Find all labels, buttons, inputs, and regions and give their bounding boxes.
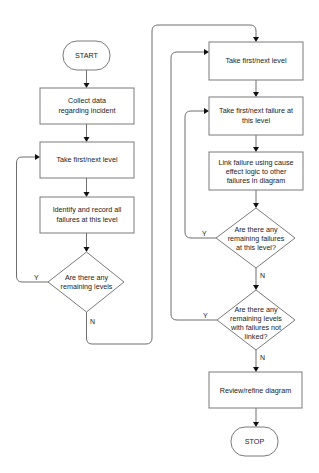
arrowhead	[253, 37, 259, 42]
arrowhead	[84, 137, 90, 142]
node-label: failures at this level	[56, 215, 118, 224]
node-label: Review/refine diagram	[220, 386, 292, 395]
node-label: Are there any	[234, 225, 278, 234]
label-no: N	[260, 272, 265, 279]
arrowhead	[253, 285, 259, 290]
node-take-level-right: Take first/next level	[209, 42, 303, 80]
arrowhead	[84, 83, 90, 88]
node-label: START	[75, 51, 99, 60]
node-collect: Collect data regarding incident	[40, 88, 134, 124]
node-remaining-failures: Are there any remaining failures at this…	[216, 208, 295, 268]
node-start: START	[63, 41, 110, 70]
node-take-failure: Take first/next failure at this level	[209, 97, 303, 135]
node-label: Collect data	[68, 96, 106, 105]
node-label: Take first/next failure at	[219, 106, 293, 115]
label-yes: Y	[34, 274, 39, 281]
node-link-failure: Link failure using cause effect logic to…	[209, 152, 303, 190]
arrowhead	[253, 203, 259, 208]
label-no: N	[260, 354, 265, 361]
node-label: Are there any	[65, 273, 109, 282]
arrowhead	[84, 192, 90, 197]
arrowhead	[204, 49, 209, 55]
node-remaining-unlinked: Are there any remaining levels with fail…	[217, 290, 295, 350]
arrowhead	[253, 147, 259, 152]
label-yes: Y	[202, 230, 207, 237]
node-label: Link failure using cause	[218, 158, 293, 167]
label-yes: Y	[203, 312, 208, 319]
node-remaining-levels: Are there any remaining levels	[48, 252, 124, 312]
node-label: Identify and record all	[53, 205, 122, 214]
node-label: with failures not	[230, 323, 281, 332]
node-label: remaining levels	[230, 314, 282, 323]
label-no: N	[90, 318, 95, 325]
node-label: Take first/next level	[56, 155, 118, 164]
node-label: regarding incident	[58, 106, 115, 115]
node-label: at this level?	[236, 243, 276, 252]
node-label: failures in diagram	[227, 176, 286, 185]
node-label: this level	[242, 116, 270, 125]
node-take-level-left: Take first/next level	[40, 142, 134, 178]
arrowhead	[253, 92, 259, 97]
node-identify: Identify and record all failures at this…	[40, 197, 134, 233]
flowchart: Y N Y N Y N START Collect data regarding…	[0, 0, 319, 473]
node-review: Review/refine diagram	[209, 372, 302, 408]
node-label: remaining failures	[228, 234, 285, 243]
arrowhead	[84, 247, 90, 252]
node-label: Are there any	[234, 305, 278, 314]
node-label: Take first/next level	[225, 56, 287, 65]
node-stop: STOP	[231, 427, 278, 456]
arrowhead	[35, 154, 40, 160]
arrowhead	[204, 108, 209, 114]
node-label: effect logic to other	[226, 167, 287, 176]
node-label: linked?	[245, 332, 268, 341]
node-label: remaining levels	[61, 282, 113, 291]
arrowhead	[253, 367, 259, 372]
arrowhead	[253, 422, 259, 427]
node-label: STOP	[245, 437, 265, 446]
